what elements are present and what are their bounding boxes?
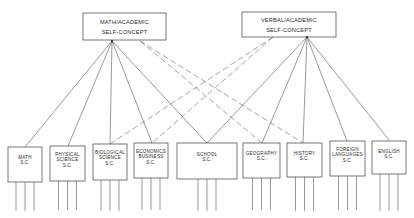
- subject-label: S.C.: [300, 156, 310, 161]
- solid-path-math-to-economics-business-sc: [112, 41, 152, 143]
- subject-label: SCIENCE: [99, 155, 121, 160]
- subject-label: S.C.: [202, 157, 212, 162]
- subject-box-history-sc: HISTORYS.C.: [287, 143, 322, 177]
- solid-path-math-to-school-sc: [112, 41, 207, 143]
- solid-path-verbal-to-history-sc: [303, 37, 307, 143]
- subject-box-english-sc: ENGLISHS.C.: [372, 141, 406, 174]
- boxes-layer: MATH/ACADEMICSELF-CONCEPTVERBAL/ACADEMIC…: [8, 12, 406, 182]
- solid-path-verbal-to-foreign-languages-sc: [307, 37, 347, 141]
- factor-label-line1: MATH/ACADEMIC: [100, 19, 149, 25]
- factor-box-math: MATH/ACADEMICSELF-CONCEPT: [83, 13, 166, 42]
- solid-path-math-to-physical-science-sc: [68, 41, 112, 146]
- subject-label: S.C.: [257, 156, 267, 161]
- subject-label: ENGLISH: [378, 149, 400, 154]
- subject-label: S.C.: [146, 160, 156, 165]
- subject-label: GEOGRAPHY: [246, 151, 277, 156]
- subject-box-biological-science-sc: BIOLOGICALSCIENCES.C.: [93, 144, 127, 180]
- subject-box-economics-business-sc: ECONOMICSBUSINESSS.C.: [134, 143, 168, 178]
- dashed-path-math-to-geography-sc: [140, 41, 262, 143]
- connection-node: [111, 40, 113, 42]
- subject-box-geography-sc: GEOGRAPHYS.C.: [243, 143, 280, 178]
- self-concept-diagram: MATH/ACADEMICSELF-CONCEPTVERBAL/ACADEMIC…: [0, 0, 414, 218]
- solid-path-verbal-to-school-sc: [207, 37, 307, 143]
- factor-label-line2: SELF-CONCEPT: [266, 27, 312, 33]
- subject-label: S.C.: [343, 158, 353, 163]
- subject-label: FOREIGN: [336, 147, 358, 152]
- dashed-path-verbal-to-biological-science-sc: [110, 37, 273, 144]
- subject-label: ECONOMICS: [136, 149, 166, 154]
- subject-label: S.C.: [384, 154, 394, 159]
- factor-box-verbal: VERBAL/ACADEMICSELF-CONCEPT: [242, 12, 336, 38]
- subject-label: MATH: [18, 155, 31, 160]
- subject-label: S.C.: [63, 163, 73, 168]
- solid-path-math-to-math-sc: [25, 41, 112, 147]
- subject-label: BUSINESS: [139, 154, 164, 159]
- solid-path-verbal-to-geography-sc: [262, 37, 307, 143]
- factor-label-line2: SELF-CONCEPT: [102, 29, 148, 35]
- solid-path-math-to-biological-science-sc: [110, 41, 112, 144]
- dashed-path-verbal-to-economics-business-sc: [152, 37, 273, 143]
- subject-box-foreign-languages-sc: FOREIGNLANGUAGESS.C.: [330, 141, 365, 176]
- factor-label-line1: VERBAL/ACADEMIC: [261, 17, 317, 23]
- subject-label: SCHOOL: [197, 152, 218, 157]
- subject-box-math-sc: MATHS.C.: [8, 147, 42, 182]
- subject-label: S.C.: [105, 161, 115, 166]
- solid-path-verbal-to-english-sc: [307, 37, 389, 140]
- subject-label: HISTORY: [294, 151, 316, 156]
- subject-label: SCIENCE: [57, 157, 79, 162]
- subject-label: LANGUAGES: [332, 152, 362, 157]
- subject-label: PHYSICAL: [55, 152, 80, 157]
- subject-box-physical-science-sc: PHYSICALSCIENCES.C.: [50, 146, 85, 181]
- subject-box-school-sc: SCHOOLS.C.: [177, 143, 237, 179]
- links-layer: [25, 37, 389, 147]
- subject-label: S.C.: [20, 160, 30, 165]
- connection-node: [306, 36, 308, 38]
- subject-label: BIOLOGICAL: [95, 150, 125, 155]
